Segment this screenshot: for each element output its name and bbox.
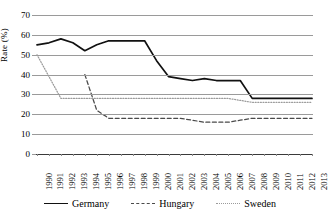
x-tick bbox=[264, 154, 265, 156]
x-tick-label: 1991 bbox=[56, 173, 65, 190]
x-tick bbox=[169, 154, 170, 156]
y-tick-50 bbox=[32, 55, 36, 56]
gridline-60 bbox=[36, 35, 313, 36]
x-tick-label: 1994 bbox=[92, 173, 101, 190]
y-tick-60 bbox=[32, 35, 36, 36]
x-tick-label: 1999 bbox=[152, 173, 161, 190]
gridline-40 bbox=[36, 75, 313, 76]
gridline-10 bbox=[36, 134, 313, 135]
x-tick bbox=[97, 154, 98, 156]
legend: GermanyHungarySweden bbox=[0, 198, 320, 209]
x-tick-label: 2005 bbox=[224, 173, 233, 190]
x-tick bbox=[228, 154, 229, 156]
x-tick-label: 1993 bbox=[80, 173, 89, 190]
x-tick-label: 2010 bbox=[284, 173, 293, 190]
x-tick-label: 1998 bbox=[140, 173, 149, 190]
x-tick bbox=[37, 154, 38, 156]
x-tick-label: 1995 bbox=[104, 173, 113, 190]
y-tick-70 bbox=[32, 15, 36, 16]
legend-swatch-dashed-icon bbox=[131, 203, 155, 204]
y-tick-label: 10 bbox=[4, 130, 30, 139]
y-axis-label: Rate (%) bbox=[0, 28, 9, 62]
x-tick-label: 2002 bbox=[188, 173, 197, 190]
x-tick-label: 2011 bbox=[296, 173, 305, 190]
x-tick-label: 1990 bbox=[45, 173, 54, 190]
x-tick-label: 2013 bbox=[320, 173, 329, 190]
x-tick bbox=[49, 154, 50, 156]
legend-label: Sweden bbox=[244, 198, 276, 209]
y-tick-label: 70 bbox=[4, 11, 30, 20]
x-tick bbox=[133, 154, 134, 156]
gridline-50 bbox=[36, 55, 313, 56]
x-axis-labels: 1990199119921993199419951996199719981999… bbox=[36, 156, 313, 192]
x-tick-label: 2006 bbox=[236, 173, 245, 190]
x-tick-label: 2007 bbox=[248, 173, 257, 190]
x-tick bbox=[180, 154, 181, 156]
y-tick-20 bbox=[32, 114, 36, 115]
legend-swatch-dotted-icon bbox=[216, 203, 240, 204]
x-tick bbox=[157, 154, 158, 156]
x-tick-label: 1992 bbox=[68, 173, 77, 190]
legend-item-hungary[interactable]: Hungary bbox=[131, 198, 194, 209]
x-tick bbox=[204, 154, 205, 156]
x-tick bbox=[61, 154, 62, 156]
gridline-30 bbox=[36, 94, 313, 95]
legend-label: Hungary bbox=[159, 198, 194, 209]
x-tick bbox=[276, 154, 277, 156]
y-tick-label: 40 bbox=[4, 71, 30, 80]
y-tick-label: 30 bbox=[4, 90, 30, 99]
x-tick bbox=[145, 154, 146, 156]
y-tick-0 bbox=[32, 154, 36, 155]
x-tick bbox=[300, 154, 301, 156]
x-tick-label: 2004 bbox=[212, 173, 221, 190]
x-tick bbox=[109, 154, 110, 156]
y-tick-40 bbox=[32, 75, 36, 76]
gridline-70 bbox=[36, 15, 313, 16]
x-tick-label: 2012 bbox=[308, 173, 317, 190]
x-tick-label: 2008 bbox=[260, 173, 269, 190]
x-tick-label: 2009 bbox=[272, 173, 281, 190]
x-tick bbox=[192, 154, 193, 156]
x-tick-label: 2001 bbox=[176, 173, 185, 190]
x-tick bbox=[312, 154, 313, 156]
legend-item-germany[interactable]: Germany bbox=[44, 198, 109, 209]
legend-item-sweden[interactable]: Sweden bbox=[216, 198, 276, 209]
plot-area: 010203040506070 bbox=[36, 15, 313, 154]
gridline-0 bbox=[36, 154, 313, 155]
legend-label: Germany bbox=[72, 198, 109, 209]
legend-swatch-solid-icon bbox=[44, 203, 68, 204]
x-tick bbox=[121, 154, 122, 156]
x-tick bbox=[240, 154, 241, 156]
gridlines: 010203040506070 bbox=[36, 15, 313, 154]
x-tick-label: 2000 bbox=[164, 173, 173, 190]
x-tick-label: 1996 bbox=[116, 173, 125, 190]
x-tick-label: 2003 bbox=[200, 173, 209, 190]
y-tick-30 bbox=[32, 94, 36, 95]
x-tick bbox=[252, 154, 253, 156]
y-tick-label: 20 bbox=[4, 110, 30, 119]
x-tick bbox=[288, 154, 289, 156]
x-tick bbox=[216, 154, 217, 156]
x-tick bbox=[85, 154, 86, 156]
gridline-20 bbox=[36, 114, 313, 115]
y-tick-label: 0 bbox=[4, 150, 30, 159]
y-tick-10 bbox=[32, 134, 36, 135]
x-tick-label: 1997 bbox=[128, 173, 137, 190]
x-tick bbox=[73, 154, 74, 156]
